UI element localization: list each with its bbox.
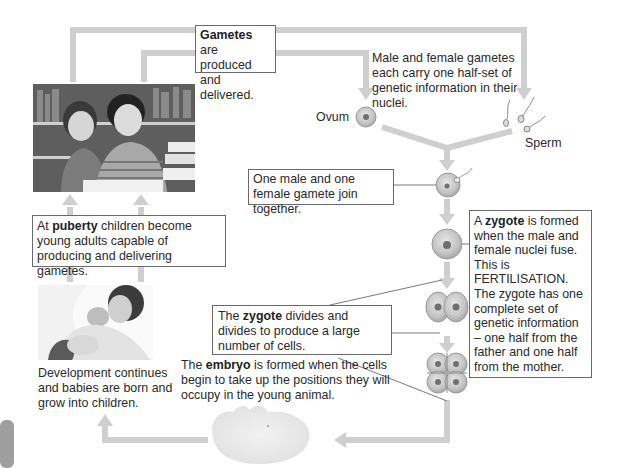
embryo-text-pre: The [181, 358, 206, 372]
zygote-term: zygote [485, 214, 524, 228]
divides-zygote-term: zygote [243, 309, 282, 323]
gametes-box: Gametes are produced and delivered. [195, 25, 276, 73]
gametes-term: Gametes [200, 28, 252, 42]
embryo-term: embryo [206, 358, 251, 372]
divides-box-pre: The [218, 309, 243, 323]
development-text: Development continues and babies are bor… [38, 366, 173, 411]
two-cell-icon [426, 292, 468, 322]
photo-child-holding-baby [38, 285, 153, 360]
embryo-illustration [212, 406, 309, 464]
puberty-box-pre: At [37, 219, 52, 233]
zygote-icon [432, 229, 462, 259]
sperm-label: Sperm [525, 136, 562, 150]
puberty-term: puberty [52, 219, 97, 233]
four-cell-icon [427, 353, 467, 393]
zygote-box-pre: A [474, 214, 485, 228]
ovum-label: Ovum [316, 110, 349, 124]
zygote-box-text: is formed when the male and female nucle… [474, 214, 583, 374]
page-edge-tab [0, 420, 14, 468]
puberty-box: At puberty children become young adults … [32, 215, 226, 267]
gametes-join-box: One male and one female gamete join toge… [248, 169, 394, 205]
fertilised-egg-icon [436, 168, 472, 197]
gametes-box-text: are produced and delivered. [200, 43, 254, 102]
zygote-divides-box: The zygote divides and divides to produc… [212, 305, 392, 355]
photo-teenagers [33, 84, 195, 192]
zygote-box: A zygote is formed when the male and fem… [469, 210, 592, 378]
embryo-text: The embryo is formed when the cells begi… [181, 358, 391, 403]
gametes-info-text: Male and female gametes each carry one h… [372, 51, 522, 111]
